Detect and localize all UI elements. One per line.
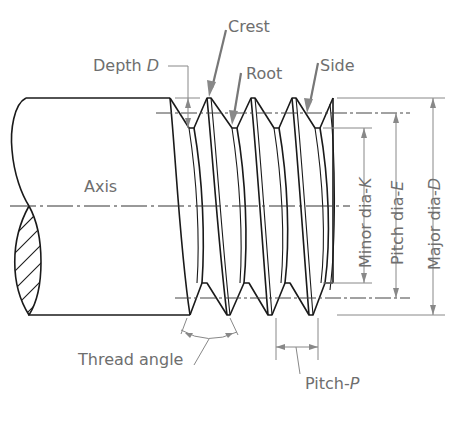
label-crest: Crest <box>228 17 270 36</box>
shaft-body <box>0 98 190 330</box>
label-depth: Depth D <box>93 56 159 75</box>
section-hatching <box>0 210 50 330</box>
label-pitch: Pitch-P <box>305 374 360 393</box>
label-root: Root <box>246 64 282 83</box>
label-axis: Axis <box>84 177 117 196</box>
label-major-dia: Major dia-D <box>425 178 444 270</box>
label-minor-dia: Minor dia-K <box>356 176 375 268</box>
label-side: Side <box>320 56 355 75</box>
thread-diagram: Crest Depth D Root Side Axis Minor dia-K… <box>0 0 450 424</box>
label-pitch-dia: Pitch dia-E <box>388 180 407 265</box>
thread-angle-dimension <box>181 318 238 365</box>
pitch-dimension <box>276 318 318 374</box>
label-thread-angle: Thread angle <box>77 350 183 369</box>
